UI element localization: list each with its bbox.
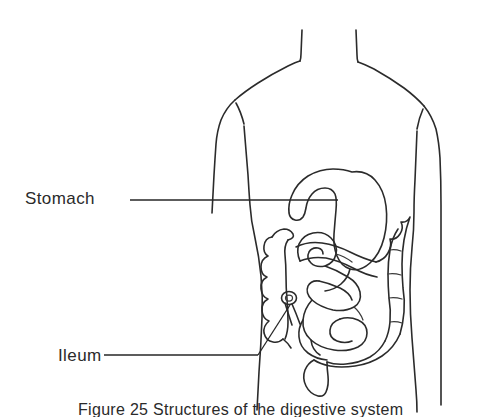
figure-caption: Figure 25 Structures of the digestive sy…	[78, 402, 403, 417]
label-stomach: Stomach	[25, 190, 95, 207]
label-ileum: Ileum	[58, 347, 102, 364]
anatomy-figure: Stomach Ileum Figure 25 Structures of th…	[0, 0, 478, 417]
leader-lines	[104, 200, 338, 355]
ascending-colon	[261, 229, 294, 348]
cecum-appendix	[282, 292, 301, 326]
stomach-organ	[289, 169, 387, 291]
